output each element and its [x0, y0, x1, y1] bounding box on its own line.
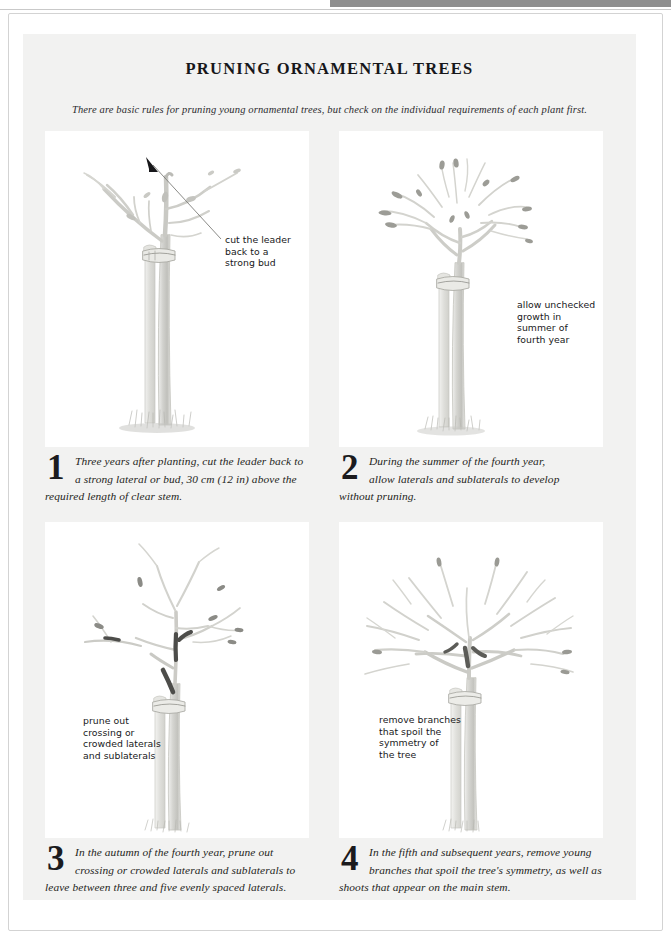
panel-step-3: prune out crossing or crowded laterals a… [45, 522, 323, 907]
caption-line: allow laterals and sublaterals to develo… [339, 471, 629, 489]
panel-step-4: remove branches that spoil the symmetry … [339, 522, 617, 907]
illustration-step-4 [339, 522, 603, 838]
caption-step-1: 1 Three years after planting, cut the le… [45, 453, 335, 506]
caption-line: branches that spoil the tree's symmetry,… [339, 862, 629, 880]
caption-step-3: 3 In the autumn of the fourth year, prun… [45, 844, 335, 897]
callout-step-2: allow unchecked growth in summer of four… [517, 299, 595, 345]
panel-step-2: allow unchecked growth in summer of four… [339, 131, 617, 516]
caption-line: leave between three and five evenly spac… [45, 879, 335, 897]
caption-line: without pruning. [339, 488, 629, 506]
callout-step-3: prune out crossing or crowded laterals a… [83, 715, 161, 761]
caption-line: required length of clear stem. [45, 488, 335, 506]
illustration-step-3 [45, 522, 309, 838]
caption-line: During the summer of the fourth year, [339, 453, 629, 471]
caption-line: In the fifth and subsequent years, remov… [339, 844, 629, 862]
callout-step-1: cut the leader back to a strong bud [225, 234, 291, 269]
callout-step-4: remove branches that spoil the symmetry … [379, 714, 461, 760]
caption-line: crossing or crowded laterals and sublate… [45, 862, 335, 880]
caption-line: shoots that appear on the main stem. [339, 879, 629, 897]
content-block: PRUNING ORNAMENTAL TREES There are basic… [23, 34, 636, 900]
caption-line: a strong lateral or bud, 30 cm (12 in) a… [45, 471, 335, 489]
step-number-1: 1 [47, 450, 65, 485]
step-number-4: 4 [341, 841, 359, 876]
step-number-3: 3 [47, 841, 65, 876]
callout-leader-line-1 [146, 157, 221, 239]
caption-line: Three years after planting, cut the lead… [45, 453, 335, 471]
page-sheet: PRUNING ORNAMENTAL TREES There are basic… [8, 13, 663, 931]
caption-step-4: 4 In the fifth and subsequent years, rem… [339, 844, 629, 897]
illustration-step-2 [339, 131, 603, 447]
scan-edge-bar [330, 0, 671, 7]
illustration-step-1 [45, 131, 309, 447]
panel-step-1: cut the leader back to a strong bud 1 Th… [45, 131, 323, 516]
step-number-2: 2 [341, 450, 359, 485]
page-subtitle: There are basic rules for pruning young … [23, 104, 636, 115]
scan-edge-rule [0, 9, 671, 10]
page-title: PRUNING ORNAMENTAL TREES [23, 59, 636, 79]
caption-line: In the autumn of the fourth year, prune … [45, 844, 335, 862]
caption-step-2: 2 During the summer of the fourth year, … [339, 453, 629, 506]
